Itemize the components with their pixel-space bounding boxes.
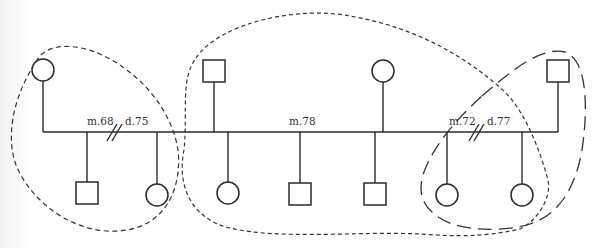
label-m72: m.72: [449, 115, 476, 127]
child-6-female: [436, 184, 458, 206]
parent-2-male: [203, 60, 225, 82]
child-7-female: [511, 184, 533, 206]
child-1-male: [76, 182, 98, 204]
label-m68: m.68: [87, 115, 114, 127]
child-2-female: [146, 184, 168, 206]
parent-1-female: [32, 59, 54, 81]
genogram: m.68 d.75 m.78 m.72 d.77: [0, 0, 598, 248]
child-3-female: [217, 182, 239, 204]
child-5-male: [364, 183, 386, 205]
parent-4-male: [547, 60, 569, 82]
label-d75: d.75: [125, 115, 148, 127]
parent-3-female: [372, 60, 394, 82]
child-4-male: [289, 183, 311, 205]
label-d77: d.77: [487, 115, 510, 127]
label-m78: m.78: [289, 115, 316, 127]
